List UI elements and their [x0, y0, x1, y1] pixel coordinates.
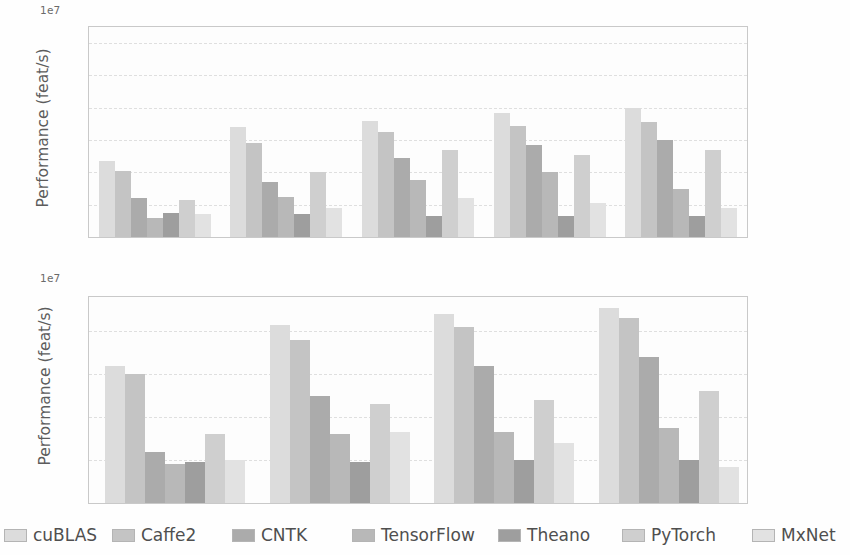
bar — [659, 428, 679, 503]
bar — [494, 432, 514, 503]
bar — [246, 143, 262, 237]
bar — [278, 197, 294, 237]
bar — [99, 161, 115, 237]
legend-label: MxNet — [781, 525, 836, 545]
bar-group: 219 — [625, 27, 737, 237]
bar — [330, 434, 350, 503]
bar — [394, 158, 410, 237]
bar — [225, 460, 245, 503]
bar-group: 211 — [99, 27, 211, 237]
bar — [526, 145, 542, 237]
bar — [558, 216, 574, 237]
y-axis-label-bottom: Performance (feat/s) — [36, 291, 54, 481]
y-axis-label-top: Performance (feat/s) — [34, 33, 52, 223]
bar — [426, 216, 442, 237]
bar — [454, 327, 474, 503]
legend-entry[interactable]: CNTK — [232, 525, 307, 545]
bar — [721, 208, 737, 237]
legend-swatch-icon — [622, 529, 645, 542]
bar — [185, 462, 205, 503]
bar — [378, 132, 394, 237]
legend-label: TensorFlow — [381, 525, 475, 545]
legend-entry[interactable]: Theano — [498, 525, 590, 545]
bar-group: 217 — [494, 27, 606, 237]
bar — [657, 140, 673, 237]
legend-swatch-icon — [498, 529, 521, 542]
legend-swatch-icon — [232, 529, 255, 542]
bar — [639, 357, 659, 503]
bar — [165, 464, 185, 503]
bar — [599, 308, 619, 503]
bar — [310, 396, 330, 503]
bar — [574, 155, 590, 237]
legend-swatch-icon — [112, 529, 135, 542]
bar — [105, 366, 125, 503]
bar — [147, 218, 163, 237]
bar-group: 211 — [105, 297, 245, 503]
bar-group: 213 — [230, 27, 342, 237]
bar-group: 213 — [270, 297, 410, 503]
legend-entry[interactable]: TensorFlow — [352, 525, 475, 545]
bar — [370, 404, 390, 503]
bar — [514, 460, 534, 503]
y-axis-offset-label-bottom: 1e7 — [40, 272, 60, 284]
bar — [410, 180, 426, 237]
legend-label: cuBLAS — [33, 525, 97, 545]
figure-root: 1e7 Performance (feat/s) 0.00.20.40.60.8… — [0, 0, 850, 555]
bar — [131, 198, 147, 237]
bar — [705, 150, 721, 237]
legend-label: PyTorch — [651, 525, 716, 545]
legend-entry[interactable]: Caffe2 — [112, 525, 196, 545]
bar — [625, 108, 641, 237]
legend-label: CNTK — [261, 525, 307, 545]
bar — [619, 318, 639, 503]
bar — [542, 172, 558, 237]
bar — [115, 171, 131, 237]
bar — [641, 122, 657, 237]
bar — [230, 127, 246, 237]
bar — [145, 452, 165, 504]
bar — [179, 200, 195, 237]
bar — [310, 172, 326, 237]
plot-area-top: 0.00.20.40.60.81.01.2211213215217219 — [88, 26, 748, 238]
bar — [673, 189, 689, 237]
bar — [195, 214, 211, 237]
legend-entry[interactable]: cuBLAS — [4, 525, 97, 545]
chart-panel-top: 1e7 Performance (feat/s) 0.00.20.40.60.8… — [0, 0, 850, 272]
bar — [474, 366, 494, 503]
legend-entry[interactable]: PyTorch — [622, 525, 716, 545]
bar — [205, 434, 225, 503]
bar-group: 215 — [434, 297, 574, 503]
bar — [458, 198, 474, 237]
plot-area-bottom: 00.10.20.30.4211213215217 — [88, 296, 748, 504]
bar — [494, 113, 510, 237]
bar — [689, 216, 705, 237]
bar — [719, 467, 739, 503]
bar-group: 215 — [362, 27, 474, 237]
bar — [590, 203, 606, 237]
legend-label: Theano — [527, 525, 590, 545]
bar — [699, 391, 719, 503]
bar — [125, 374, 145, 503]
legend-swatch-icon — [752, 529, 775, 542]
bar — [262, 182, 278, 237]
bar — [294, 214, 310, 237]
bar — [534, 400, 554, 503]
legend-label: Caffe2 — [141, 525, 196, 545]
bar — [434, 314, 454, 503]
bar — [290, 340, 310, 503]
bar-group: 217 — [599, 297, 739, 503]
legend-swatch-icon — [4, 529, 27, 542]
legend: cuBLASCaffe2CNTKTensorFlowTheanoPyTorchM… — [0, 518, 850, 552]
bar — [362, 121, 378, 237]
legend-entry[interactable]: MxNet — [752, 525, 836, 545]
chart-panel-bottom: 1e7 Performance (feat/s) 00.10.20.30.421… — [0, 268, 850, 518]
y-axis-offset-label-top: 1e7 — [40, 4, 60, 16]
bar — [554, 443, 574, 503]
bar — [326, 208, 342, 237]
bar — [442, 150, 458, 237]
bar — [270, 325, 290, 503]
bar — [679, 460, 699, 503]
bar — [350, 462, 370, 503]
bar — [163, 213, 179, 237]
